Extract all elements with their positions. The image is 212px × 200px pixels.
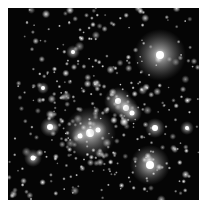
star-cluster-image <box>8 8 199 200</box>
star-field <box>8 8 199 200</box>
